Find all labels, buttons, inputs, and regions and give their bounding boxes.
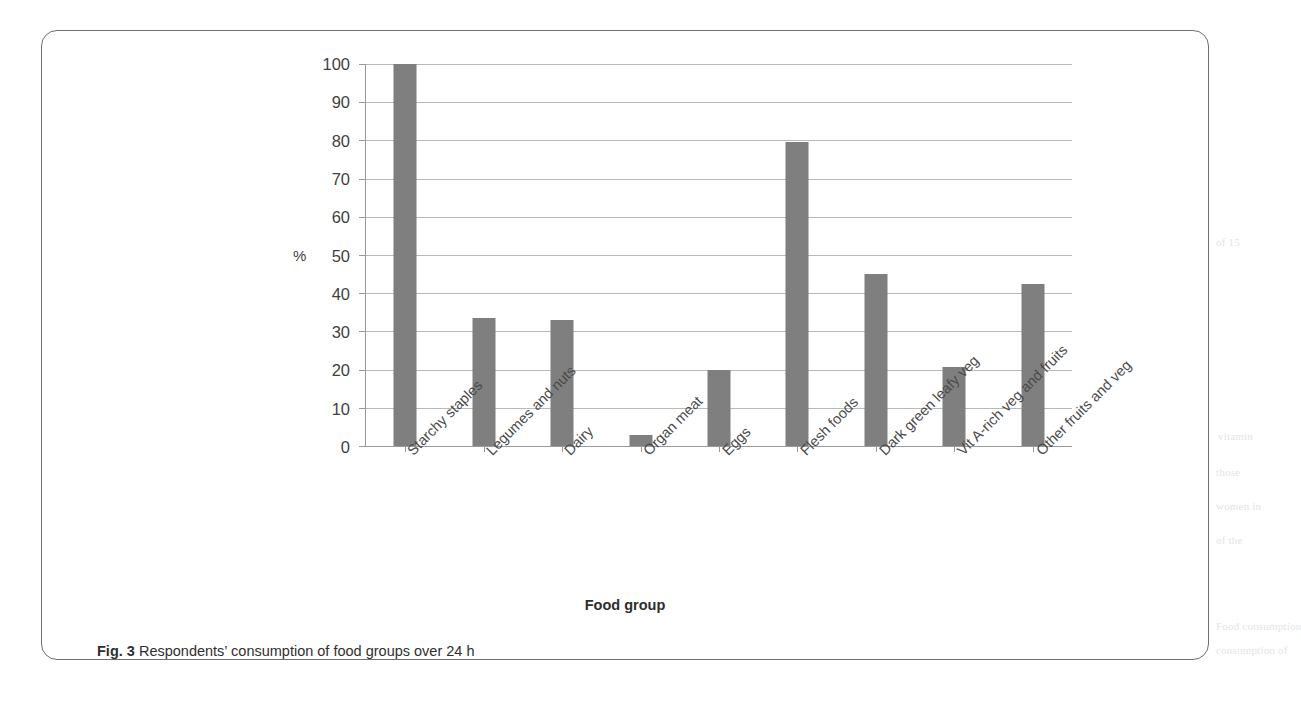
ghost-text: Food consumption [1216, 620, 1301, 632]
y-axis-tick: 60 [359, 217, 366, 218]
y-axis-tick-label: 30 [332, 323, 350, 342]
bar-slot [601, 64, 679, 446]
y-axis-tick: 10 [359, 408, 366, 409]
bar-slot [758, 64, 836, 446]
y-axis-tick-label: 60 [332, 208, 350, 227]
ghost-text: vitamin [1218, 430, 1253, 442]
ghost-text: those [1216, 466, 1240, 478]
bar[interactable] [394, 64, 417, 446]
bar-slot [366, 64, 444, 446]
y-axis-title: % [293, 247, 306, 264]
y-axis-tick-label: 70 [332, 169, 350, 188]
bar-slot [680, 64, 758, 446]
y-axis-tick: 90 [359, 102, 366, 103]
bar-slot [837, 64, 915, 446]
y-axis-tick-label: 50 [332, 246, 350, 265]
y-axis-tick: 40 [359, 293, 366, 294]
y-axis-tick-label: 0 [341, 438, 350, 457]
bar[interactable] [864, 274, 887, 446]
y-axis-tick: 50 [359, 255, 366, 256]
y-axis-tick-label: 10 [332, 399, 350, 418]
bar[interactable] [786, 142, 809, 446]
figure-frame: % 0102030405060708090100 Starchy staples… [41, 30, 1209, 660]
y-axis-tick-label: 90 [332, 93, 350, 112]
figure-caption: Fig. 3 Respondents’ consumption of food … [97, 643, 475, 659]
y-axis-tick-label: 40 [332, 284, 350, 303]
ghost-text: consumption of [1216, 644, 1288, 656]
y-axis-tick-label: 80 [332, 131, 350, 150]
y-axis-tick-label: 100 [322, 55, 350, 74]
ghost-text: women in [1216, 500, 1261, 512]
y-axis-tick: 100 [359, 64, 366, 65]
y-axis-tick: 70 [359, 179, 366, 180]
y-axis-tick-label: 20 [332, 361, 350, 380]
bar[interactable] [707, 370, 730, 446]
figure-caption-label: Fig. 3 [97, 643, 135, 659]
x-axis-title: Food group [42, 597, 1208, 613]
figure-caption-text: Respondents’ consumption of food groups … [139, 643, 475, 659]
ghost-text: of the [1216, 534, 1243, 546]
y-axis-tick: 20 [359, 370, 366, 371]
ghost-text: of 15 [1216, 236, 1240, 248]
y-axis-tick: 80 [359, 140, 366, 141]
y-axis-tick: 30 [359, 331, 366, 332]
x-axis-tick-labels: Starchy staplesLegumes and nutsDairyOrga… [365, 447, 1150, 597]
